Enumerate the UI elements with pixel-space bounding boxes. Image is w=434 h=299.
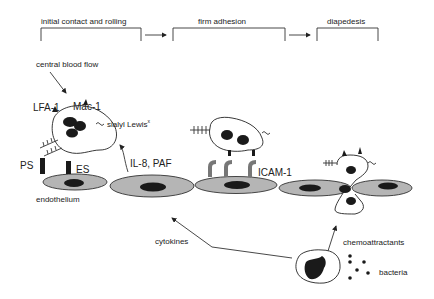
selectin-ligands bbox=[323, 160, 337, 166]
leukocyte-body bbox=[209, 117, 262, 151]
stage-diapedesis: diapedesis bbox=[317, 17, 378, 41]
stage-label-firm-adhesion: firm adhesion bbox=[198, 17, 246, 26]
nucleus-lobe bbox=[339, 185, 351, 193]
bacteria-label: bacteria bbox=[379, 268, 408, 277]
sialyl-lewis-label: sialyl Lewisx bbox=[107, 118, 150, 129]
endothelium-label: endothelium bbox=[36, 195, 80, 204]
nucleus bbox=[378, 183, 398, 190]
macrophage bbox=[296, 250, 340, 283]
stage-bracket-initial bbox=[41, 28, 141, 41]
mac1-label: Mac-1 bbox=[73, 101, 101, 112]
central-blood-flow-label: central blood flow bbox=[36, 60, 98, 69]
stage-initial-contact: initial contact and rolling bbox=[41, 17, 141, 41]
nucleus-lobe bbox=[221, 130, 233, 140]
bacteria bbox=[348, 254, 370, 280]
stage-firm-adhesion: firm adhesion bbox=[173, 17, 285, 41]
il8-paf-label: IL-8, PAF bbox=[130, 158, 172, 169]
blood-flow-arrow bbox=[50, 72, 66, 93]
leukocyte-extravasation-diagram: initial contact and rolling firm adhesio… bbox=[0, 0, 434, 299]
bacterium bbox=[355, 268, 359, 272]
sialyl-lewis-receptor bbox=[368, 162, 376, 165]
stage-bracket-firm bbox=[173, 28, 285, 41]
bacterium bbox=[348, 276, 352, 280]
integrin bbox=[342, 150, 347, 156]
icam1-receptor bbox=[226, 162, 232, 177]
nucleus bbox=[64, 179, 84, 187]
nucleus-lobe bbox=[66, 129, 78, 138]
cytokines-label: cytokines bbox=[155, 237, 188, 246]
chemoattractants-arrow bbox=[328, 226, 336, 251]
nucleus bbox=[140, 183, 166, 192]
nucleus-lobe bbox=[346, 197, 356, 205]
lfa1-label: LFA-1 bbox=[33, 102, 60, 113]
bacterium bbox=[348, 254, 352, 258]
il8-paf-arrow bbox=[120, 145, 128, 172]
chemoattractants-label: chemoattractants bbox=[343, 238, 404, 247]
adherent-leukocyte bbox=[190, 117, 270, 156]
sialyl-lewis-receptor bbox=[262, 132, 270, 135]
integrin bbox=[252, 150, 255, 156]
nucleus-lobe bbox=[346, 166, 356, 174]
stage-label-initial-contact: initial contact and rolling bbox=[41, 17, 126, 26]
cytokines-arrow bbox=[172, 218, 292, 258]
icam1-receptors bbox=[210, 162, 256, 177]
bacterium bbox=[362, 260, 366, 264]
p-selectin bbox=[40, 158, 45, 174]
e-selectin bbox=[66, 161, 71, 174]
bacterium bbox=[348, 260, 352, 264]
ps-label: PS bbox=[20, 160, 34, 171]
leukocyte-body bbox=[52, 106, 116, 154]
nucleus-lobe bbox=[74, 121, 86, 131]
nucleus-lobe bbox=[237, 135, 249, 145]
bacterium bbox=[366, 271, 370, 275]
icam1-label: ICAM-1 bbox=[258, 167, 292, 178]
integrin bbox=[358, 147, 362, 154]
selectin-ligands bbox=[190, 126, 210, 134]
es-label: ES bbox=[76, 164, 90, 175]
icam1-receptor bbox=[250, 162, 256, 177]
nucleus bbox=[224, 181, 250, 189]
stage-bracket-diapedesis bbox=[317, 28, 378, 41]
integrin bbox=[228, 150, 231, 156]
icam1-receptor bbox=[210, 162, 216, 177]
stage-label-diapedesis: diapedesis bbox=[327, 17, 365, 26]
nucleus bbox=[299, 185, 321, 192]
